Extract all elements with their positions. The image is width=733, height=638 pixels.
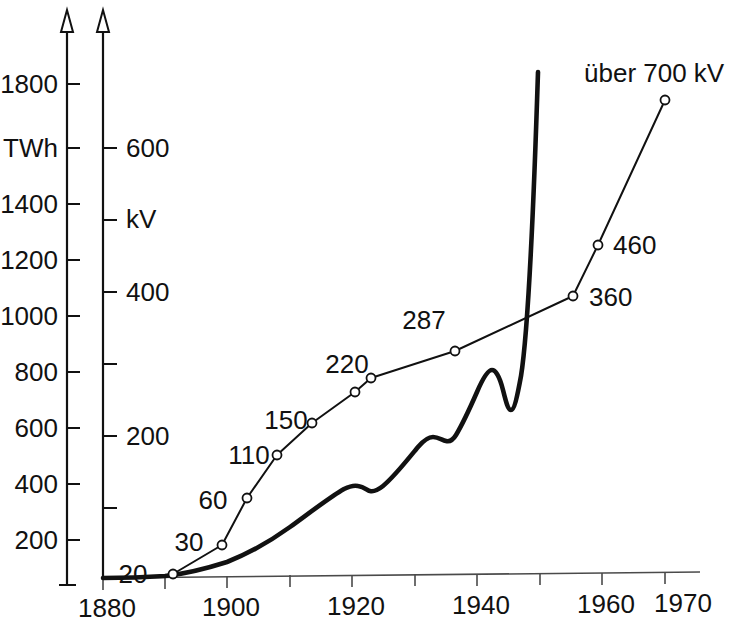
twh-tick-label-400: 400 (15, 469, 58, 499)
twh-tick-label-800: 800 (15, 357, 58, 387)
twh-tick-label-1200: 1200 (0, 245, 58, 275)
x-tick-label-1880: 1880 (78, 593, 136, 623)
data-point-marker (218, 541, 227, 550)
point-label-220: 220 (325, 349, 368, 379)
kv-tick-labels: 600 kV 400 200 (126, 133, 169, 451)
data-point-marker (243, 494, 252, 503)
kv-axis-unit-label: kV (126, 204, 157, 234)
data-point-marker (661, 96, 670, 105)
x-tick-label-1960: 1960 (577, 589, 635, 619)
kv-tick-label-600: 600 (126, 133, 169, 163)
point-label-110: 110 (228, 440, 269, 470)
twh-tick-labels: 1800 TWh 1400 1200 1000 800 600 400 200 (0, 69, 58, 555)
x-tick-label-1920: 1920 (327, 591, 385, 621)
x-tick-labels: 1880 1900 1920 1940 1960 1970 (78, 588, 712, 623)
data-point-marker (351, 388, 360, 397)
data-point-marker (273, 451, 282, 460)
kv-axis-group (97, 10, 109, 578)
kv-axis-ticks (103, 148, 117, 508)
point-label-60: 60 (199, 485, 228, 515)
series-annotation-ueber-700-kv: über 700 kV (584, 58, 725, 88)
twh-tick-label-200: 200 (15, 525, 58, 555)
point-label-20: 20 (119, 559, 148, 589)
twh-tick-label-1400: 1400 (0, 189, 58, 219)
data-point-marker (569, 292, 578, 301)
chart-figure: 1800 TWh 1400 1200 1000 800 600 400 200 … (0, 0, 733, 638)
point-label-30: 30 (175, 527, 204, 557)
kv-tick-label-400: 400 (126, 277, 169, 307)
x-tick-label-1940: 1940 (452, 590, 510, 620)
twh-axis-unit-label: TWh (3, 133, 58, 163)
kv-axis-arrow-icon (97, 10, 109, 32)
chart-canvas: 1800 TWh 1400 1200 1000 800 600 400 200 … (0, 0, 733, 638)
x-tick-label-1900: 1900 (202, 592, 260, 622)
twh-tick-label-1000: 1000 (0, 301, 58, 331)
twh-tick-label-1800: 1800 (0, 69, 58, 99)
point-label-287: 287 (402, 305, 445, 335)
data-point-marker (308, 419, 317, 428)
data-point-marker (451, 347, 460, 356)
twh-tick-label-600: 600 (15, 413, 58, 443)
x-tick-label-1970: 1970 (654, 588, 712, 618)
kv-tick-label-200: 200 (126, 421, 169, 451)
point-label-360: 360 (589, 282, 632, 312)
twh-axis-arrow-icon (61, 10, 73, 32)
twh-axis-ticks (67, 84, 80, 540)
data-point-marker (169, 570, 178, 579)
series-point-labels-voltage: 20 30 60 110 150 220 287 360 460 (119, 230, 657, 589)
data-point-marker (594, 241, 603, 250)
point-label-150: 150 (264, 405, 307, 435)
twh-axis-group (59, 10, 76, 585)
point-label-460: 460 (613, 230, 656, 260)
